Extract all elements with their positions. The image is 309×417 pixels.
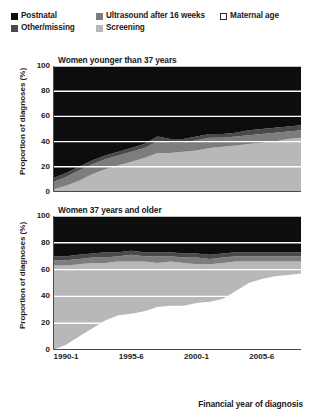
x-tick-label: 2005-6: [249, 352, 274, 361]
plot-area-younger-than-37: [53, 66, 301, 192]
y-tick-label: 80: [28, 87, 50, 95]
y-tick-label: 20: [28, 319, 50, 327]
legend-item-screening: Screening: [96, 24, 220, 32]
x-axis-title: Financial year of diagnosis: [0, 399, 303, 409]
legend-swatch-ultrasound-after-16-weeks: [96, 13, 103, 20]
y-tick-label: 40: [28, 292, 50, 300]
plot-area-37-and-older: [53, 216, 301, 350]
y-tick-label: 60: [28, 112, 50, 120]
legend-row: Other/missing Screening: [11, 23, 303, 34]
y-tick-label: 100: [28, 62, 50, 70]
y-axis-ticks-top: 100806040200: [26, 66, 50, 192]
legend-label-other-missing: Other/missing: [21, 24, 75, 32]
y-tick-label: 40: [28, 138, 50, 146]
legend-swatch-maternal-age: [220, 13, 227, 20]
stacked-area-svg-top: [53, 66, 301, 192]
panel-title-37-and-older: Women 37 years and older: [58, 205, 162, 215]
legend-label-postnatal: Postnatal: [21, 12, 57, 20]
panel-title-younger-than-37: Women younger than 37 years: [58, 55, 177, 65]
y-tick-label: 0: [28, 346, 50, 354]
legend-swatch-other-missing: [11, 25, 18, 32]
legend-item-postnatal: Postnatal: [11, 12, 96, 20]
legend-swatch-screening: [96, 25, 103, 32]
x-tick-label: 1990-1: [54, 352, 79, 361]
y-tick-label: 80: [28, 239, 50, 247]
legend-swatch-postnatal: [11, 13, 18, 20]
chart-legend: Postnatal Ultrasound after 16 weeks Mate…: [11, 11, 303, 35]
x-tick-label: 2000-1: [184, 352, 209, 361]
x-axis-ticks: 1990-11995-62000-12005-6: [53, 352, 301, 364]
legend-label-maternal-age: Maternal age: [230, 12, 279, 20]
y-axis-ticks-bottom: 100806040200: [26, 216, 50, 350]
area-series-postnatal: [53, 216, 301, 256]
x-tick-label: 1995-6: [119, 352, 144, 361]
stacked-area-svg-bottom: [53, 216, 301, 350]
y-tick-label: 100: [28, 212, 50, 220]
y-tick-label: 0: [28, 188, 50, 196]
y-tick-label: 20: [28, 163, 50, 171]
legend-item-maternal-age: Maternal age: [220, 12, 279, 20]
y-tick-label: 60: [28, 266, 50, 274]
legend-item-other-missing: Other/missing: [11, 24, 96, 32]
legend-label-screening: Screening: [106, 24, 145, 32]
legend-row: Postnatal Ultrasound after 16 weeks Mate…: [11, 11, 303, 22]
legend-label-ultrasound-after-16-weeks: Ultrasound after 16 weeks: [106, 12, 205, 20]
legend-item-ultrasound-after-16-weeks: Ultrasound after 16 weeks: [96, 12, 220, 20]
